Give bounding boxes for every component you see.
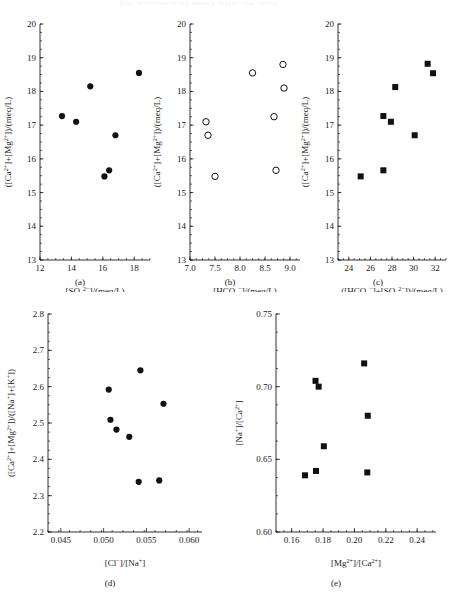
svg-text:18: 18 — [27, 86, 37, 96]
svg-text:19: 19 — [325, 53, 335, 63]
svg-text:15: 15 — [177, 188, 187, 198]
svg-text:[Mg2+]/[Ca2+]: [Mg2+]/[Ca2+] — [331, 558, 381, 568]
svg-text:28: 28 — [388, 263, 398, 273]
svg-text:0.18: 0.18 — [315, 535, 331, 545]
svg-text:20: 20 — [177, 19, 187, 29]
panel-e-caption: (e) — [296, 578, 376, 588]
svg-text:0.050: 0.050 — [93, 535, 114, 545]
svg-text:2.6: 2.6 — [33, 382, 45, 392]
svg-text:18: 18 — [130, 263, 140, 273]
panel-b-plot: 13141516171819207.07.58.08.59.0[HCO3−]/(… — [148, 12, 308, 292]
svg-text:[Cl−]/[Na+]: [Cl−]/[Na+] — [105, 558, 145, 568]
svg-text:8.5: 8.5 — [259, 263, 271, 273]
svg-text:2.5: 2.5 — [33, 418, 45, 428]
svg-text:([Ca2+]+[Mg2+])/(meq/L): ([Ca2+]+[Mg2+])/(meq/L) — [300, 97, 310, 188]
svg-text:16: 16 — [177, 154, 187, 164]
panel-d: 2.22.32.42.52.62.72.80.0450.0500.0550.06… — [0, 300, 228, 580]
svg-text:16: 16 — [27, 154, 37, 164]
svg-text:30: 30 — [409, 263, 419, 273]
panel-b-caption: (b) — [190, 277, 270, 287]
svg-text:17: 17 — [325, 120, 335, 130]
svg-text:([Ca2+]+[Mg2+])/(meq/L): ([Ca2+]+[Mg2+])/(meq/L) — [152, 97, 162, 188]
panel-a-caption: (a) — [40, 277, 120, 287]
svg-text:[Na+]/[Ca2+]: [Na+]/[Ca2+] — [234, 401, 244, 446]
svg-text:0.20: 0.20 — [347, 535, 363, 545]
svg-text:19: 19 — [27, 53, 37, 63]
svg-text:32: 32 — [431, 263, 440, 273]
svg-text:18: 18 — [177, 86, 187, 96]
svg-text:26: 26 — [366, 263, 376, 273]
svg-text:14: 14 — [67, 263, 77, 273]
svg-text:13: 13 — [325, 255, 335, 265]
panel-e-plot: 0.600.650.700.750.160.180.200.220.24[Mg2… — [226, 300, 454, 580]
svg-text:8.0: 8.0 — [234, 263, 246, 273]
svg-text:14: 14 — [177, 221, 187, 231]
svg-text:14: 14 — [27, 221, 37, 231]
panel-d-caption: (d) — [70, 578, 150, 588]
svg-text:9.0: 9.0 — [284, 263, 296, 273]
panel-c: 13141516171819202426283032([HCO3−]+[SO42… — [296, 12, 454, 292]
panel-a: 131415161718192012141618[SO42−]/(meq/L)(… — [0, 12, 158, 292]
svg-text:17: 17 — [27, 120, 37, 130]
svg-text:19: 19 — [177, 53, 187, 63]
svg-text:([Ca2+]+[Mg2+])/(meq/L): ([Ca2+]+[Mg2+])/(meq/L) — [3, 97, 13, 188]
svg-text:2.2: 2.2 — [33, 527, 44, 537]
figure-header-text: Fig. Relationships among major ion ratio… — [120, 0, 370, 8]
svg-text:20: 20 — [325, 19, 335, 29]
svg-text:2.7: 2.7 — [33, 345, 45, 355]
svg-text:0.70: 0.70 — [256, 382, 272, 392]
svg-text:0.65: 0.65 — [256, 454, 272, 464]
svg-text:18: 18 — [325, 86, 335, 96]
svg-text:2.4: 2.4 — [33, 454, 45, 464]
svg-text:15: 15 — [27, 188, 37, 198]
panel-c-caption: (c) — [338, 277, 418, 287]
scatter-plot-figure: Fig. Relationships among major ion ratio… — [0, 0, 454, 604]
svg-text:0.60: 0.60 — [256, 527, 272, 537]
svg-text:2.8: 2.8 — [33, 309, 45, 319]
svg-text:0.75: 0.75 — [256, 309, 272, 319]
svg-text:0.045: 0.045 — [51, 535, 72, 545]
svg-text:14: 14 — [325, 221, 335, 231]
svg-text:0.060: 0.060 — [179, 535, 200, 545]
panel-e: 0.600.650.700.750.160.180.200.220.24[Mg2… — [226, 300, 454, 580]
svg-text:12: 12 — [36, 263, 45, 273]
svg-text:16: 16 — [98, 263, 108, 273]
svg-text:24: 24 — [344, 263, 354, 273]
svg-text:20: 20 — [27, 19, 37, 29]
panel-d-plot: 2.22.32.42.52.62.72.80.0450.0500.0550.06… — [0, 300, 228, 580]
svg-text:([Ca2+]+[Mg2+])/([Na+]+[K+]): ([Ca2+]+[Mg2+])/([Na+]+[K+]) — [6, 369, 16, 477]
svg-text:15: 15 — [325, 188, 335, 198]
panel-b: 13141516171819207.07.58.08.59.0[HCO3−]/(… — [148, 12, 308, 292]
svg-text:16: 16 — [325, 154, 335, 164]
svg-text:0.24: 0.24 — [409, 535, 425, 545]
svg-text:17: 17 — [177, 120, 187, 130]
svg-text:7.0: 7.0 — [184, 263, 196, 273]
panel-a-plot: 131415161718192012141618[SO42−]/(meq/L)(… — [0, 12, 158, 292]
svg-text:0.055: 0.055 — [136, 535, 157, 545]
panel-c-plot: 13141516171819202426283032([HCO3−]+[SO42… — [296, 12, 454, 292]
svg-text:7.5: 7.5 — [209, 263, 221, 273]
svg-text:0.22: 0.22 — [378, 535, 394, 545]
svg-text:0.16: 0.16 — [284, 535, 300, 545]
svg-text:2.3: 2.3 — [33, 491, 45, 501]
